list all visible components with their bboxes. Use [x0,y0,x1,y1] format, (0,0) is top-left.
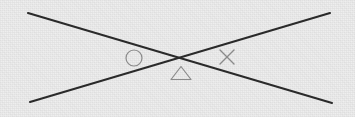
triangle-glyph [171,67,191,80]
cross-glyph [220,50,234,64]
line-drawing [0,0,355,117]
figure-canvas [0,0,355,117]
circle-glyph [126,50,142,66]
